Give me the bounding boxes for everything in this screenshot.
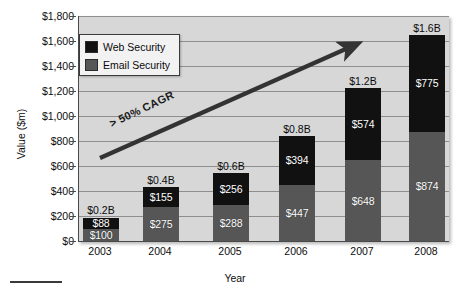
x-axis-title: Year (0, 272, 470, 284)
y-tick-mark (70, 116, 76, 117)
bar-total-label: $0.4B (135, 174, 187, 186)
bar-total-label: $0.6B (205, 160, 257, 172)
bar-segment-email-2003[interactable]: $100 (83, 229, 119, 242)
bar-value-label: $574 (352, 118, 375, 130)
x-tick-label-2007: 2007 (336, 245, 388, 257)
bar-value-label: $447 (286, 207, 309, 219)
bar-segment-email-2005[interactable]: $288 (213, 205, 249, 241)
bar-segment-web-2008[interactable]: $775 (409, 35, 445, 132)
x-tick-label-2006: 2006 (270, 245, 322, 257)
bar-segment-email-2004[interactable]: $275 (143, 207, 179, 241)
legend: Web Security Email Security (79, 34, 180, 76)
gridline (79, 91, 449, 92)
gridline (79, 16, 449, 17)
y-tick-mark (70, 141, 76, 142)
bar-total-label: $1.2B (337, 75, 389, 87)
y-tick-label: $200 (0, 210, 74, 222)
y-tick-mark (70, 216, 76, 217)
x-tick-label-2005: 2005 (204, 245, 256, 257)
bar-segment-web-2005[interactable]: $256 (213, 173, 249, 205)
legend-item-email-security[interactable]: Email Security (85, 57, 174, 73)
bar-value-label: $88 (93, 217, 110, 229)
y-tick-label: $0 (0, 235, 74, 247)
y-axis-title: Value ($m) (15, 89, 27, 179)
y-tick-label: $1,400 (0, 60, 74, 72)
gridline (79, 191, 449, 192)
bar-column-2003[interactable]: $100 $88 $0.2B (83, 218, 119, 242)
bar-column-2005[interactable]: $288 $256 $0.6B (213, 173, 249, 241)
bar-value-label: $256 (220, 183, 243, 195)
y-tick-label: $600 (0, 160, 74, 172)
gridline (79, 141, 449, 142)
bar-total-label: $0.8B (271, 123, 323, 135)
bar-value-label: $155 (150, 191, 173, 203)
gridline (79, 216, 449, 217)
legend-label: Email Security (103, 59, 170, 71)
legend-label: Web Security (103, 41, 165, 53)
bar-value-label: $275 (150, 218, 173, 230)
y-tick-label: $1,200 (0, 85, 74, 97)
x-tick-label-2008: 2008 (400, 245, 452, 257)
y-tick-label: $1,000 (0, 110, 74, 122)
bar-column-2006[interactable]: $447 $394 $0.8B (279, 136, 315, 241)
bar-column-2007[interactable]: $648 $574 $1.2B (345, 88, 381, 241)
bar-segment-email-2006[interactable]: $447 (279, 185, 315, 241)
y-tick-label: $1,800 (0, 10, 74, 22)
y-tick-label: $800 (0, 135, 74, 147)
bar-column-2004[interactable]: $275 $155 $0.4B (143, 187, 179, 241)
bar-column-2008[interactable]: $874 $775 $1.6B (409, 35, 445, 241)
y-tick-mark (70, 91, 76, 92)
bar-value-label: $100 (90, 229, 113, 241)
bar-value-label: $648 (352, 195, 375, 207)
legend-swatch-web-security (85, 41, 98, 53)
stacked-bar-chart: $0 $200 $400 $600 $800 $1,000 $1,200 $1,… (0, 0, 470, 292)
footer-divider (10, 281, 62, 283)
bar-value-label: $288 (220, 217, 243, 229)
bar-segment-email-2008[interactable]: $874 (409, 132, 445, 241)
bar-segment-web-2007[interactable]: $574 (345, 88, 381, 160)
bar-total-label: $1.6B (401, 22, 453, 34)
legend-swatch-email-security (85, 59, 98, 71)
y-tick-mark (70, 41, 76, 42)
bar-segment-web-2006[interactable]: $394 (279, 136, 315, 185)
bar-value-label: $775 (416, 77, 439, 89)
bar-value-label: $874 (416, 180, 439, 192)
bar-total-label: $0.2B (75, 204, 127, 216)
y-tick-mark (70, 66, 76, 67)
y-tick-mark (70, 166, 76, 167)
y-tick-mark (70, 16, 76, 17)
bar-segment-web-2003[interactable]: $88 (83, 218, 119, 229)
x-tick-label-2004: 2004 (134, 245, 186, 257)
legend-item-web-security[interactable]: Web Security (85, 39, 174, 55)
y-tick-label: $1,600 (0, 35, 74, 47)
x-tick-label-2003: 2003 (74, 245, 126, 257)
y-tick-label: $400 (0, 185, 74, 197)
gridline (79, 166, 449, 167)
bar-value-label: $394 (286, 154, 309, 166)
y-tick-mark (70, 241, 76, 242)
y-tick-mark (70, 191, 76, 192)
bar-segment-web-2004[interactable]: $155 (143, 187, 179, 206)
bar-segment-email-2007[interactable]: $648 (345, 160, 381, 241)
